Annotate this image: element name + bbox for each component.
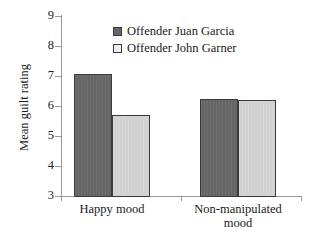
y-tick-8	[55, 46, 61, 47]
y-tick-label-6: 6	[34, 99, 54, 111]
legend-label-juan-garcia: Offender Juan Garcia	[127, 25, 234, 38]
y-tick-label-9: 9	[34, 9, 54, 21]
y-tick-label-8: 8	[34, 39, 54, 51]
x-category-label-happy-mood: Happy mood	[52, 202, 172, 216]
y-tick-9	[55, 16, 61, 17]
y-tick-label-7: 7	[34, 69, 54, 81]
chart-legend: Offender Juan Garcia Offender John Garne…	[113, 24, 236, 58]
dark-grey-swatch-icon	[113, 27, 122, 36]
bar-happy-mood-juan-garcia	[74, 74, 112, 197]
legend-item-juan-garcia: Offender Juan Garcia	[113, 24, 236, 39]
x-category-label-non-manipulated-mood: Non-manipulated mood	[178, 202, 298, 230]
y-axis-line	[61, 15, 62, 197]
legend-label-john-garner: Offender John Garner	[127, 42, 236, 55]
x-category-label-happy-mood-line1: Happy mood	[52, 202, 172, 216]
y-tick-5	[55, 136, 61, 137]
light-grey-swatch-icon	[113, 44, 122, 53]
x-tick-category-divider	[181, 196, 182, 201]
bar-non-manipulated-mood-john-garner	[238, 100, 276, 197]
y-tick-label-3: 3	[34, 189, 54, 201]
y-tick-label-5: 5	[34, 129, 54, 141]
y-tick-7	[55, 76, 61, 77]
x-category-label-non-manipulated-mood-line1: Non-manipulated	[178, 202, 298, 216]
y-tick-6	[55, 106, 61, 107]
bar-non-manipulated-mood-juan-garcia	[200, 99, 238, 197]
y-tick-label-4: 4	[34, 159, 54, 171]
x-tick-start	[61, 196, 62, 201]
bar-chart-figure: Mean guilt rating 9 8 7 6 5 4 3 Happy mo…	[0, 0, 312, 248]
x-category-label-non-manipulated-mood-line2: mood	[178, 216, 298, 230]
y-axis-title: Mean guilt rating	[17, 38, 32, 178]
x-tick-end	[301, 196, 302, 201]
legend-item-john-garner: Offender John Garner	[113, 41, 236, 56]
bar-happy-mood-john-garner	[112, 115, 150, 197]
y-tick-4	[55, 166, 61, 167]
